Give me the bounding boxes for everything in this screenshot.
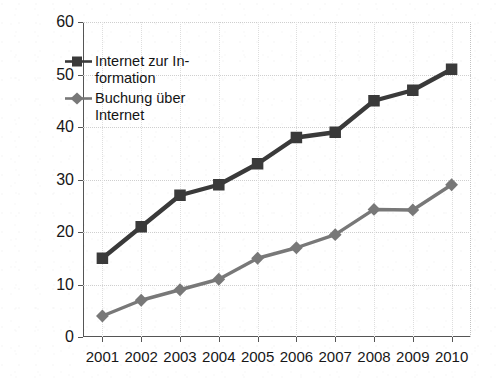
legend-marker-square-icon (65, 53, 92, 70)
x-tick-mark (296, 337, 297, 342)
data-point-marker (368, 95, 380, 107)
data-point-marker (212, 273, 225, 286)
data-point-marker (97, 253, 109, 265)
data-point-marker (290, 241, 303, 254)
x-tick-label: 2006 (280, 348, 313, 365)
data-point-marker (135, 294, 148, 307)
y-tick-label: 0 (65, 328, 74, 346)
x-tick-label: 2009 (396, 348, 429, 365)
data-point-marker (291, 132, 303, 144)
legend-label-buchung: Buchung überInternet (95, 90, 185, 124)
x-tick-mark (413, 337, 414, 342)
x-tick-label: 2010 (435, 348, 468, 365)
legend-label-buchung-line1: Buchung über (95, 90, 185, 106)
legend-marker-diamond-icon (65, 90, 92, 107)
x-tick-mark (141, 337, 142, 342)
legend-item-information[interactable]: Internet zur In-formation (65, 53, 189, 87)
data-point-marker (213, 179, 225, 191)
x-tick-mark (180, 337, 181, 342)
series-line-buchung (102, 185, 451, 316)
data-point-marker (446, 64, 458, 76)
x-tick-label: 2003 (163, 348, 196, 365)
data-point-marker (252, 158, 264, 170)
legend-label-information-line1: Internet zur In- (95, 53, 189, 69)
x-tick-label: 2008 (357, 348, 390, 365)
legend-label-information-line2: formation (95, 70, 155, 86)
x-tick-mark (374, 337, 375, 342)
chart-root: Nutzer in % der Bevölkerung +14 01020304… (0, 0, 497, 379)
x-tick-label: 2001 (86, 348, 119, 365)
legend-label-information: Internet zur In-formation (95, 53, 189, 87)
legend: Internet zur In-formation Buchung überIn… (65, 53, 189, 127)
x-tick-label: 2004 (202, 348, 235, 365)
data-point-marker (329, 127, 341, 139)
y-tick-label: 20 (56, 223, 74, 241)
data-point-marker (174, 190, 186, 202)
data-point-marker (96, 310, 109, 323)
y-tick-label: 30 (56, 171, 74, 189)
data-point-marker (135, 221, 147, 233)
x-tick-label: 2005 (241, 348, 274, 365)
x-tick-mark (452, 337, 453, 342)
x-tick-mark (258, 337, 259, 342)
legend-item-buchung[interactable]: Buchung überInternet (65, 90, 189, 124)
data-point-marker (174, 283, 187, 296)
x-tick-label: 2002 (125, 348, 158, 365)
x-tick-mark (102, 337, 103, 342)
data-point-marker (251, 252, 264, 265)
y-tick-label: 60 (56, 13, 74, 31)
x-tick-mark (335, 337, 336, 342)
x-tick-label: 2007 (319, 348, 352, 365)
y-tick-mark (78, 337, 83, 338)
x-tick-mark (219, 337, 220, 342)
data-point-marker (407, 85, 419, 97)
legend-label-buchung-line2: Internet (95, 107, 144, 123)
y-tick-label: 10 (56, 276, 74, 294)
